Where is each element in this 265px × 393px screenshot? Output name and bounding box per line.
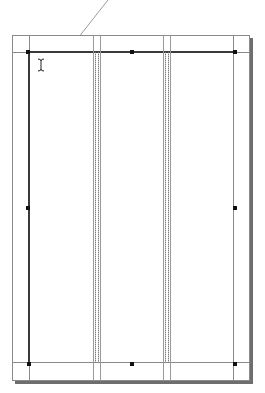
handle-top-right[interactable]	[233, 50, 237, 54]
column-3-left-guide-inner	[168, 52, 169, 363]
column-3-left-guide[interactable]	[170, 35, 171, 381]
document-page[interactable]	[12, 35, 250, 381]
handle-bottom-left[interactable]	[27, 362, 31, 366]
column-2-left-guide-inner	[98, 52, 99, 363]
handle-middle-left[interactable]	[26, 206, 30, 210]
column-2-right-guide-inner	[165, 52, 166, 363]
ibeam-cursor-icon	[37, 58, 45, 72]
page-shadow-right	[250, 38, 253, 384]
column-2-right-guide[interactable]	[163, 35, 164, 381]
column-1-right-guide-inner	[95, 52, 96, 363]
column-1-right-guide[interactable]	[93, 35, 94, 381]
page-shadow-bottom	[15, 381, 253, 384]
handle-middle-right[interactable]	[233, 206, 237, 210]
handle-bottom-center[interactable]	[130, 362, 134, 366]
column-2-left-guide[interactable]	[100, 35, 101, 381]
handle-top-left[interactable]	[26, 50, 30, 54]
handle-top-center[interactable]	[130, 50, 134, 54]
handle-bottom-right[interactable]	[233, 362, 237, 366]
